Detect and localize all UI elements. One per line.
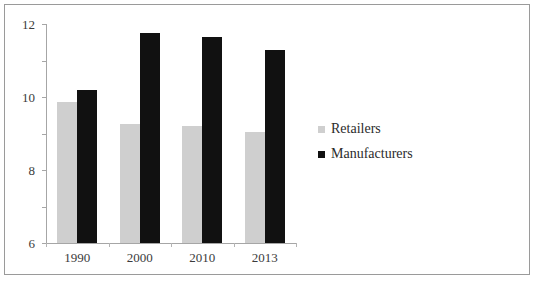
bar-retailers-2000 <box>120 124 140 243</box>
bar-retailers-2010 <box>182 126 202 243</box>
y-tick-mark: 4 <box>42 170 46 171</box>
x-tick-label-2010: 2010 <box>189 251 215 264</box>
y-tick-label: 8 <box>29 164 36 177</box>
y-tick-mark: 2 <box>42 207 46 208</box>
y-tick-mark: 12 <box>42 24 46 25</box>
bar-retailers-1990 <box>57 102 77 243</box>
x-tick-mark <box>296 243 297 247</box>
x-tick-mark <box>46 243 47 247</box>
x-tick-label-2013: 2013 <box>252 251 278 264</box>
bar-manufacturers-2010 <box>202 37 222 243</box>
legend-swatch-manufacturers-icon <box>318 151 325 158</box>
legend-item-retailers[interactable]: Retailers <box>318 122 498 136</box>
x-tick-label-1990: 1990 <box>64 251 90 264</box>
y-tick-label: 12 <box>22 18 35 31</box>
y-tick-mark: 6 <box>42 134 46 135</box>
bar-manufacturers-1990 <box>77 90 97 243</box>
y-tick-mark: 10 <box>42 61 46 62</box>
chart-figure: 024681012 1990200020102013 RetailersManu… <box>0 0 535 286</box>
bar-manufacturers-2000 <box>140 33 160 243</box>
legend-label: Retailers <box>331 122 381 136</box>
y-axis-line <box>46 24 47 243</box>
y-tick-label: 6 <box>29 237 36 250</box>
plot-area: 024681012 1990200020102013 <box>46 24 296 243</box>
legend-label: Manufacturers <box>331 147 413 161</box>
x-tick-mark <box>234 243 235 247</box>
y-tick-label: 10 <box>22 91 35 104</box>
x-tick-mark <box>109 243 110 247</box>
x-tick-label-2000: 2000 <box>127 251 153 264</box>
legend-item-manufacturers[interactable]: Manufacturers <box>318 147 498 161</box>
chart-legend: RetailersManufacturers <box>318 122 498 172</box>
bar-manufacturers-2013 <box>265 50 285 243</box>
bar-retailers-2013 <box>245 132 265 243</box>
y-tick-mark: 8 <box>42 97 46 98</box>
x-tick-mark <box>171 243 172 247</box>
legend-swatch-retailers-icon <box>318 126 325 133</box>
